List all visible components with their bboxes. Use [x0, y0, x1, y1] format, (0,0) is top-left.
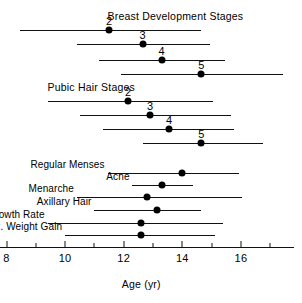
mean-marker: [158, 182, 165, 189]
group-title-breast-development-stages: Breast Development Stages: [108, 11, 244, 22]
x-axis-minor-tick: [211, 243, 212, 247]
mean-marker: [138, 220, 145, 227]
x-axis-minor-tick: [35, 243, 36, 247]
event-label: Acne: [106, 172, 129, 182]
mean-marker: [198, 140, 205, 147]
mean-marker: [125, 98, 132, 105]
x-axis-major-tick: [240, 241, 241, 247]
stage-number-label: 2: [125, 87, 131, 98]
range-bar: [48, 223, 224, 224]
mean-marker: [198, 71, 205, 78]
stage-number-label: 5: [198, 60, 204, 71]
x-axis-tick-label: 10: [59, 253, 72, 264]
x-axis-tick-label: 8: [3, 253, 9, 264]
stage-number-label: 4: [166, 115, 172, 126]
event-label: Regular Menses: [30, 160, 104, 170]
range-bar: [80, 115, 231, 116]
mean-marker: [144, 194, 151, 201]
stage-number-label: 3: [147, 101, 153, 112]
puberty-timeline-chart: Breast Development Stages2345Pubic Hair …: [0, 0, 302, 303]
stage-number-label: 3: [140, 30, 146, 41]
x-axis-minor-tick: [270, 243, 271, 247]
mean-marker: [138, 232, 145, 239]
x-axis-major-tick: [65, 241, 66, 247]
mean-marker: [154, 207, 161, 214]
stage-number-label: 2: [106, 16, 112, 27]
range-bar: [94, 210, 201, 211]
x-axis-major-tick: [6, 241, 7, 247]
mean-marker: [139, 41, 146, 48]
stage-number-label: 4: [159, 46, 165, 57]
mean-marker: [166, 126, 173, 133]
mean-marker: [147, 112, 154, 119]
x-axis-tick-label: 16: [234, 253, 247, 264]
x-axis-minor-tick: [94, 243, 95, 247]
mean-marker: [158, 57, 165, 64]
x-axis-tick-label: 12: [117, 253, 130, 264]
event-label: Menarche: [29, 184, 74, 194]
group-title-pubic-hair-stages: Pubic Hair Stages: [48, 82, 135, 93]
x-axis-title: Age (yr): [122, 279, 161, 290]
x-axis-major-tick: [123, 241, 124, 247]
event-label: Max. Weight Gain: [0, 222, 62, 232]
x-axis-minor-tick: [153, 243, 154, 247]
x-axis-major-tick: [182, 241, 183, 247]
range-bar: [77, 197, 243, 198]
mean-marker: [106, 27, 113, 34]
x-axis-tick-label: 14: [176, 253, 189, 264]
event-label: Max. Growth Rate: [0, 210, 45, 220]
stage-number-label: 5: [198, 129, 204, 140]
x-axis-line: [0, 247, 294, 248]
event-label: Axillary Hair: [37, 197, 92, 207]
mean-marker: [179, 170, 186, 177]
